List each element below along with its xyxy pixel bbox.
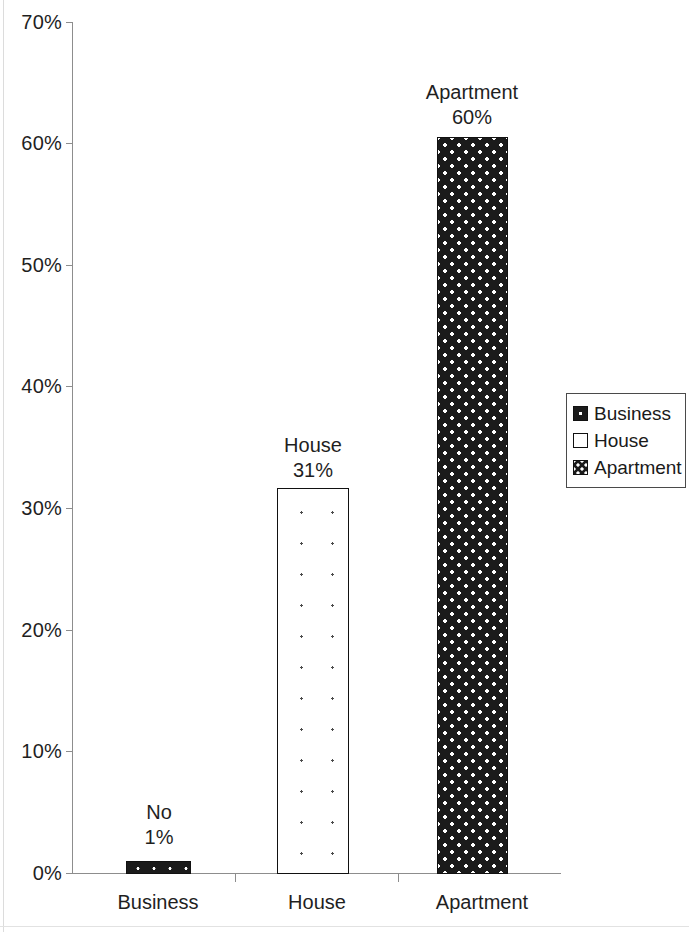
y-axis-tick-text: 50% bbox=[4, 255, 62, 275]
data-label-house-name: House bbox=[252, 433, 374, 458]
bar-business[interactable] bbox=[126, 861, 191, 874]
y-axis-tick bbox=[66, 751, 73, 752]
x-axis-category-house: House bbox=[255, 890, 379, 914]
y-axis-tick-text: 70% bbox=[4, 12, 62, 32]
y-axis-tick-label-10: 10% bbox=[0, 741, 62, 761]
data-label-house-value: 31% bbox=[252, 458, 374, 483]
data-label-apartment-value: 60% bbox=[407, 105, 537, 130]
y-axis-tick-label-60: 60% bbox=[0, 133, 62, 153]
x-axis-separator-tick bbox=[235, 873, 236, 882]
legend-label-apartment: Apartment bbox=[594, 457, 682, 479]
data-label-apartment-name: Apartment bbox=[407, 80, 537, 105]
y-axis-tick-label-50: 50% bbox=[0, 255, 62, 275]
data-label-business-value: 1% bbox=[98, 825, 220, 850]
legend-swatch-business-icon bbox=[573, 406, 588, 421]
legend-item-house[interactable]: House bbox=[573, 427, 680, 454]
y-axis-tick-label-70: 70% bbox=[0, 12, 62, 32]
bar-house[interactable] bbox=[277, 488, 349, 874]
y-axis-tick bbox=[66, 630, 73, 631]
legend-item-business[interactable]: Business bbox=[573, 400, 680, 427]
y-axis-tick-text: 30% bbox=[4, 498, 62, 518]
y-axis-tick bbox=[66, 386, 73, 387]
legend: Business House Apartment bbox=[566, 393, 686, 488]
y-axis-line bbox=[72, 22, 73, 874]
bar-apartment[interactable] bbox=[437, 137, 508, 874]
legend-label-house: House bbox=[594, 430, 649, 452]
y-axis-tick bbox=[66, 143, 73, 144]
x-axis-separator-tick bbox=[398, 873, 399, 882]
x-axis-category-business: Business bbox=[96, 890, 220, 914]
y-axis-tick-label-40: 40% bbox=[0, 376, 62, 396]
legend-label-business: Business bbox=[594, 403, 671, 425]
bar-chart: 70% 60% 50% 40% 30% 20% 10% 0% Business … bbox=[0, 0, 689, 932]
y-axis-tick-label-0: 0% bbox=[0, 863, 62, 883]
y-axis-tick bbox=[66, 265, 73, 266]
legend-swatch-house-icon bbox=[573, 433, 588, 448]
legend-item-apartment[interactable]: Apartment bbox=[573, 454, 680, 481]
y-axis-tick-text: 60% bbox=[4, 133, 62, 153]
y-axis-tick-text: 40% bbox=[4, 376, 62, 396]
data-label-business-name: No bbox=[98, 800, 220, 825]
y-axis-tick-text: 0% bbox=[4, 863, 62, 883]
y-axis-tick bbox=[66, 508, 73, 509]
y-axis-tick-label-30: 30% bbox=[0, 498, 62, 518]
y-axis-tick bbox=[66, 22, 73, 23]
x-axis-category-apartment: Apartment bbox=[415, 890, 549, 914]
page-edge-bottom bbox=[0, 926, 689, 927]
y-axis-tick-label-20: 20% bbox=[0, 620, 62, 640]
y-axis-tick-text: 20% bbox=[4, 620, 62, 640]
legend-swatch-apartment-icon bbox=[573, 460, 588, 475]
y-axis-tick-text: 10% bbox=[4, 741, 62, 761]
